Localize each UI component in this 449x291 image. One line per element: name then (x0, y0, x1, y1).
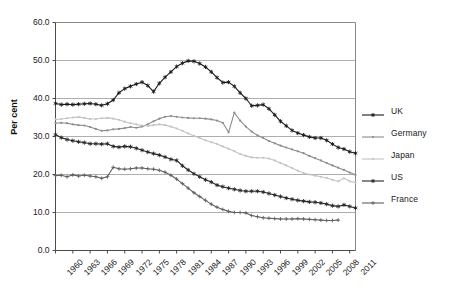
series-us (54, 133, 358, 211)
legend-label-japan: Japan (391, 150, 415, 160)
legend-label-uk: UK (391, 106, 403, 116)
y-axis-tick-label: 60.0 (20, 17, 50, 27)
legend-item-us[interactable]: US (361, 166, 447, 188)
y-axis-tick-label: 20.0 (20, 169, 50, 179)
series-japan (54, 116, 356, 184)
y-axis-tick-label: 30.0 (20, 131, 50, 141)
legend-item-japan[interactable]: Japan (361, 144, 447, 166)
legend-label-us: US (391, 172, 403, 182)
line-chart: Per cent UK Germany Japan US France 0.01… (0, 0, 449, 291)
legend-label-france: France (391, 194, 418, 204)
legend-swatch-germany (361, 128, 385, 138)
y-axis-tick-label: 0.0 (20, 245, 50, 255)
legend-item-germany[interactable]: Germany (361, 122, 447, 144)
legend-swatch-france (361, 194, 385, 204)
legend-swatch-japan (361, 150, 385, 160)
legend-swatch-us (361, 172, 385, 182)
y-axis-tick-label: 10.0 (20, 207, 50, 217)
chart-legend: UK Germany Japan US France (361, 100, 447, 210)
series-france (54, 165, 340, 222)
y-axis-tick-label: 50.0 (20, 55, 50, 65)
legend-label-germany: Germany (391, 128, 427, 138)
legend-swatch-uk (361, 106, 385, 116)
legend-item-uk[interactable]: UK (361, 100, 447, 122)
legend-item-france[interactable]: France (361, 188, 447, 210)
y-axis-tick-label: 40.0 (20, 93, 50, 103)
